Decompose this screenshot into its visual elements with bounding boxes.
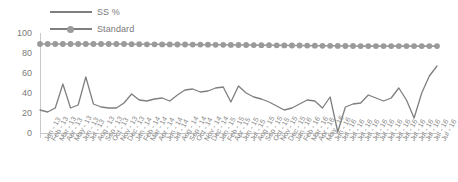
series-marker-standard <box>274 42 280 48</box>
series-marker-standard <box>404 43 410 49</box>
series-marker-standard <box>213 42 219 48</box>
legend-line-swatch-ss <box>50 6 92 18</box>
series-marker-standard <box>197 42 203 48</box>
series-marker-standard <box>297 43 303 49</box>
series-marker-standard <box>358 43 364 49</box>
series-marker-standard <box>106 41 112 47</box>
series-marker-standard <box>136 41 142 47</box>
y-axis: 020406080100 <box>0 33 36 133</box>
series-marker-standard <box>37 41 43 47</box>
y-axis-tick-label: 40 <box>22 88 32 98</box>
series-marker-standard <box>98 41 104 47</box>
series-marker-standard <box>190 42 196 48</box>
chart-legend: SS % Standard <box>50 3 230 37</box>
series-marker-standard <box>327 43 333 49</box>
y-axis-tick-label: 100 <box>17 28 32 38</box>
legend-item-ss-percent[interactable]: SS % <box>50 3 230 20</box>
series-marker-standard <box>83 41 89 47</box>
series-marker-standard <box>182 42 188 48</box>
series-marker-standard <box>243 42 249 48</box>
x-axis-labels: Jan - 13Feb - 13Mar - 13Apr - 13May - 13… <box>40 138 437 182</box>
series-marker-standard <box>266 42 272 48</box>
series-marker-standard <box>129 41 135 47</box>
series-marker-standard <box>159 42 165 48</box>
series-marker-standard <box>289 43 295 49</box>
series-marker-standard <box>152 41 158 47</box>
y-axis-tick-label: 80 <box>22 48 32 58</box>
series-marker-standard <box>68 41 74 47</box>
series-marker-standard <box>144 41 150 47</box>
legend-label-standard: Standard <box>97 24 134 34</box>
series-marker-standard <box>350 43 356 49</box>
series-marker-standard <box>52 41 58 47</box>
series-marker-standard <box>251 42 257 48</box>
series-marker-standard <box>228 42 234 48</box>
y-axis-tick-label: 20 <box>22 108 32 118</box>
series-marker-standard <box>281 43 287 49</box>
series-marker-standard <box>434 43 440 49</box>
series-marker-standard <box>113 41 119 47</box>
series-marker-standard <box>259 42 265 48</box>
series-marker-standard <box>335 43 341 49</box>
series-marker-standard <box>381 43 387 49</box>
series-marker-standard <box>60 41 66 47</box>
series-marker-standard <box>312 43 318 49</box>
series-marker-standard <box>167 42 173 48</box>
series-marker-standard <box>205 42 211 48</box>
series-marker-standard <box>373 43 379 49</box>
series-marker-standard <box>426 43 432 49</box>
series-marker-standard <box>236 42 242 48</box>
series-marker-standard <box>365 43 371 49</box>
series-marker-standard <box>419 43 425 49</box>
series-marker-standard <box>75 41 81 47</box>
series-markers-standard <box>37 41 440 49</box>
series-marker-standard <box>91 41 97 47</box>
series-marker-standard <box>175 42 181 48</box>
y-axis-tick-label: 0 <box>27 128 32 138</box>
series-marker-standard <box>342 43 348 49</box>
series-marker-standard <box>396 43 402 49</box>
series-marker-standard <box>45 41 51 47</box>
series-marker-standard <box>121 41 127 47</box>
series-marker-standard <box>220 42 226 48</box>
y-axis-tick-label: 60 <box>22 68 32 78</box>
legend-label-ss: SS % <box>97 7 120 17</box>
series-marker-standard <box>411 43 417 49</box>
series-marker-standard <box>304 43 310 49</box>
series-marker-standard <box>388 43 394 49</box>
series-marker-standard <box>320 43 326 49</box>
